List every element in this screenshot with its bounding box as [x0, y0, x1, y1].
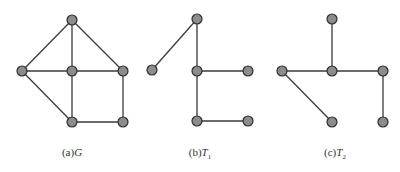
- graph-t2: [277, 14, 388, 127]
- vertex: [243, 116, 253, 126]
- caption-t1: (b)T1: [155, 146, 245, 161]
- edge: [72, 20, 123, 71]
- vertex: [192, 66, 202, 76]
- caption-g: (a)G: [27, 146, 117, 161]
- vertex: [327, 117, 337, 127]
- vertex: [67, 15, 77, 25]
- vertex: [67, 117, 77, 127]
- caption-t2: (c)T2: [290, 146, 380, 161]
- vertex: [147, 65, 157, 75]
- edge: [22, 20, 72, 71]
- edge: [152, 19, 197, 70]
- vertex: [192, 116, 202, 126]
- edge: [282, 71, 332, 122]
- vertex: [67, 66, 77, 76]
- graph-g: [17, 15, 128, 127]
- vertex: [378, 117, 388, 127]
- vertex: [327, 66, 337, 76]
- vertex: [118, 66, 128, 76]
- vertex: [118, 117, 128, 127]
- vertex: [192, 14, 202, 24]
- vertex: [277, 66, 287, 76]
- vertex: [17, 66, 27, 76]
- vertex: [378, 66, 388, 76]
- edge: [22, 71, 72, 122]
- vertex: [327, 14, 337, 24]
- vertex: [243, 66, 253, 76]
- graph-t1: [147, 14, 253, 126]
